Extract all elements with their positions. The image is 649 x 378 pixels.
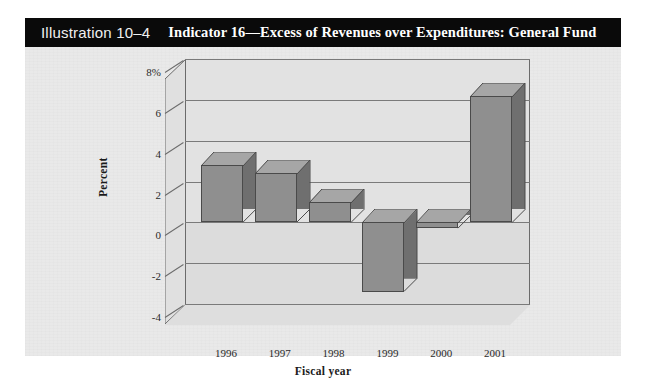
bar-front-face (201, 165, 243, 222)
figure-title: Indicator 16—Excess of Revenues over Exp… (168, 24, 596, 41)
bar-2000[interactable] (416, 222, 458, 228)
x-axis-tick-label: 1997 (269, 347, 291, 359)
y-axis-tick-label: -2 (152, 270, 161, 282)
bar-front-face (416, 222, 458, 228)
bar-2001[interactable] (470, 96, 512, 223)
plot-floor (165, 304, 531, 325)
plot-3d-box (165, 59, 555, 337)
gridline (185, 263, 530, 264)
y-axis-title: Percent (97, 157, 109, 197)
x-axis-tick-label: 1996 (215, 347, 237, 359)
bar-front-face (309, 202, 351, 222)
bar-1998[interactable] (309, 202, 351, 222)
y-axis-tick-label: 2 (156, 189, 162, 201)
gridline (185, 222, 530, 223)
illustration-number: Illustration 10–4 (41, 24, 150, 41)
x-axis-title: Fiscal year (25, 365, 621, 377)
bar-front-face (470, 96, 512, 223)
y-axis-tick-label: 8% (146, 66, 161, 78)
x-axis-tick-labels: 199619971998199920002001 (165, 347, 565, 363)
x-axis-tick-label: 1999 (376, 347, 398, 359)
bar-side-face (511, 83, 525, 210)
y-axis-tick-label: -4 (152, 311, 161, 323)
figure-panel: Illustration 10–4 Indicator 16—Excess of… (25, 18, 621, 356)
gridline (185, 304, 530, 305)
chart-area: Percent 8%6420-2-4 199619971998199920002… (25, 47, 621, 356)
y-axis-tick-label: 4 (156, 148, 162, 160)
x-axis-tick-label: 2001 (484, 347, 506, 359)
figure-title-bar: Illustration 10–4 Indicator 16—Excess of… (25, 18, 621, 47)
gridline (185, 59, 530, 60)
y-axis-tick-label: 0 (156, 229, 162, 241)
bar-1997[interactable] (255, 173, 297, 222)
y-axis-tick-label: 6 (156, 107, 162, 119)
bar-front-face (362, 222, 404, 291)
bar-1996[interactable] (201, 165, 243, 222)
x-axis-tick-label: 1998 (323, 347, 345, 359)
x-axis-tick-label: 2000 (430, 347, 452, 359)
y-axis-tick-labels: 8%6420-2-4 (121, 59, 161, 337)
bar-1999[interactable] (362, 222, 404, 291)
bar-front-face (255, 173, 297, 222)
